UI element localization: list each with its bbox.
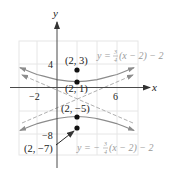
equation-upper-suffix: (x − 2) − 2 <box>119 50 164 62</box>
hyperbola-graph: x y −2 6 4 −8 (2, 3) (2, 1) (2, −5) (2, … <box>0 0 170 173</box>
equation-lower-asymptote: y = − 3 4 (x − 2) − 2 <box>76 141 154 155</box>
tick-label-x-6: 6 <box>113 91 118 102</box>
tick-label-x-neg2: −2 <box>29 91 40 102</box>
tick-label-y-neg8: −8 <box>42 130 53 141</box>
y-axis-label: y <box>52 7 58 19</box>
equation-lower-prefix: y = − <box>76 142 100 153</box>
point-label-2-neg5: (2, −5) <box>61 103 90 115</box>
pointer-arrow-2-neg7 <box>56 131 74 145</box>
point-label-2-1: (2, 1) <box>65 83 88 95</box>
equation-upper-frac-num: 3 <box>113 49 117 55</box>
equation-lower-frac-num: 3 <box>103 141 107 147</box>
x-axis-label: x <box>151 81 157 93</box>
equation-upper-frac-den: 4 <box>114 57 117 63</box>
hyperbola-lower-branch-right <box>77 117 134 131</box>
equation-upper-prefix: y = <box>96 50 111 61</box>
equation-lower-suffix: (x − 2) − 2 <box>109 142 154 154</box>
equation-lower-frac-den: 4 <box>104 149 107 155</box>
point-2-neg5 <box>74 114 79 119</box>
point-label-2-3: (2, 3) <box>65 55 88 67</box>
point-2-neg7 <box>74 125 79 130</box>
tick-label-y-4: 4 <box>48 59 53 70</box>
point-label-2-neg7: (2, −7) <box>24 143 53 155</box>
hyperbola-upper-branch-right <box>77 68 134 82</box>
point-2-3 <box>74 67 79 72</box>
hyperbola-lower-branch-left <box>20 117 77 131</box>
equation-upper-asymptote: y = 3 4 (x − 2) − 2 <box>96 49 164 63</box>
